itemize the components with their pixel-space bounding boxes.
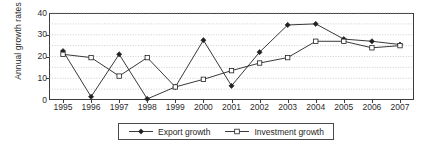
y-tick-label: 0 xyxy=(25,96,47,105)
data-point-marker xyxy=(313,21,318,26)
series-layer xyxy=(49,13,414,100)
y-axis-title: Annual growth rates xyxy=(13,0,23,96)
data-point-marker xyxy=(117,74,121,78)
data-point-marker xyxy=(285,55,289,59)
legend-label: Export growth xyxy=(158,127,210,137)
series-line-investment xyxy=(63,41,400,87)
data-point-marker xyxy=(89,55,93,59)
growth-rates-line-chart: Annual growth rates Export growthInvestm… xyxy=(0,0,424,147)
chart-legend: Export growthInvestment growth xyxy=(118,123,334,140)
data-point-marker xyxy=(201,38,206,43)
data-point-marker xyxy=(342,39,346,43)
data-point-marker xyxy=(398,43,402,47)
data-point-marker xyxy=(257,61,261,65)
y-tick-label: 10 xyxy=(25,74,47,83)
data-point-marker xyxy=(370,46,374,50)
data-point-marker xyxy=(369,39,374,44)
legend-filled-diamond-icon xyxy=(128,127,154,136)
legend-item-export-growth[interactable]: Export growth xyxy=(128,127,210,137)
plot-area xyxy=(49,13,414,100)
data-point-marker xyxy=(201,77,205,81)
data-point-marker xyxy=(229,68,233,72)
x-tick-label: 2007 xyxy=(383,103,417,112)
data-point-marker xyxy=(314,39,318,43)
data-point-marker xyxy=(173,85,177,89)
data-point-marker xyxy=(145,55,149,59)
y-tick-label: 20 xyxy=(25,52,47,61)
legend-label: Investment growth xyxy=(254,127,323,137)
data-point-marker xyxy=(61,52,65,56)
legend-item-investment-growth[interactable]: Investment growth xyxy=(224,127,323,137)
data-point-marker xyxy=(117,52,122,57)
y-tick-label: 40 xyxy=(25,9,47,18)
y-tick-label: 30 xyxy=(25,30,47,39)
legend-open-square-icon xyxy=(224,127,250,136)
data-point-marker xyxy=(88,94,93,99)
